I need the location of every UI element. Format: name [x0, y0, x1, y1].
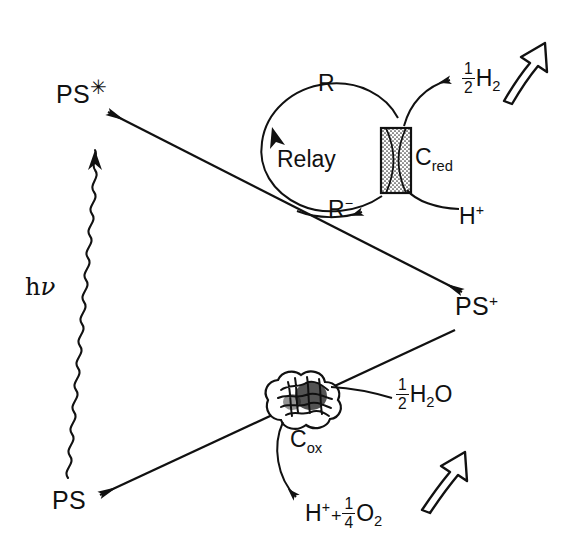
- label-relay-reduced: R−: [328, 198, 353, 221]
- label-water-reactant: 1 2 H2O: [396, 378, 452, 413]
- label-ps-cation: PS+: [455, 294, 498, 319]
- label-catalyst-red: Cred: [415, 146, 453, 169]
- fraction-one-half-h2o: 1 2: [396, 377, 409, 412]
- label-relay: Relay: [277, 148, 336, 171]
- fraction-one-quarter-o2: 1 4: [342, 496, 355, 531]
- label-oxygen-product: H++ 1 4 O2: [305, 497, 382, 532]
- label-proton: H+: [459, 205, 484, 228]
- label-relay-oxidized: R: [318, 72, 335, 95]
- hydrogen-evolution-arrow: [404, 80, 450, 126]
- label-photon-energy: hν: [25, 275, 55, 299]
- oxidation-catalyst-blob: [266, 371, 341, 428]
- photon-excitation-wavy-arrow: [66, 150, 102, 478]
- label-hydrogen-product: 1 2 H2: [462, 62, 501, 97]
- label-ps-ground: PS: [52, 488, 86, 513]
- hydrogen-release-outline-arrow: [504, 43, 547, 104]
- label-catalyst-ox: Cox: [290, 428, 322, 451]
- reduction-catalyst-box: [381, 128, 411, 193]
- fraction-one-half-h2: 1 2: [462, 61, 475, 96]
- water-splitting-scheme-diagram: PS✳ PS PS+ hν Relay R R− Cred Cox H+ 1 2…: [0, 0, 566, 560]
- proton-uptake-curve: [407, 190, 459, 209]
- label-ps-excited: PS✳: [56, 82, 107, 107]
- oxygen-release-outline-arrow: [422, 452, 467, 513]
